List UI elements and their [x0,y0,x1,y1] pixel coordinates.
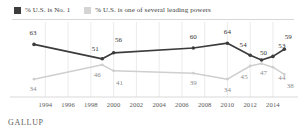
data-point[interactable] [32,43,36,47]
x-tick-1996: 1996 [61,101,75,109]
data-label: 44 [278,74,285,82]
data-point[interactable] [260,58,264,62]
data-label: 56 [115,36,122,44]
x-tick-2012: 2012 [243,101,257,109]
data-point[interactable] [112,69,115,72]
x-tick-2010: 2010 [221,101,235,109]
x-tick-2008: 2008 [198,101,212,109]
data-label: 53 [278,42,285,50]
data-label: 54 [240,41,247,49]
gallup-line-chart: % U.S. is No. 1 % U.S. is one of several… [0,0,304,135]
data-point[interactable] [249,65,252,68]
x-tick-2004: 2004 [152,101,166,109]
legend-label-us-is-no-1: % U.S. is No. 1 [25,6,70,14]
plot-area [0,22,304,102]
gallup-brand-footer: GALLUP [8,118,44,128]
x-tick-2000: 2000 [107,101,121,109]
data-label: 47 [260,69,267,77]
data-label: 64 [224,28,231,36]
data-point[interactable] [226,41,230,45]
data-label: 63 [29,29,36,37]
data-label: 59 [285,33,292,41]
x-axis-tick-labels: 1994199619982000200220042006200820102012… [0,101,304,113]
data-point[interactable] [191,46,195,50]
chart-legend: % U.S. is No. 1 % U.S. is one of several… [0,3,304,17]
data-point[interactable] [260,62,263,65]
data-point[interactable] [101,63,104,66]
data-point[interactable] [271,55,275,59]
data-point[interactable] [192,72,195,75]
data-label: 45 [241,73,248,81]
data-point[interactable] [100,57,104,61]
x-tick-2006: 2006 [175,101,189,109]
data-point[interactable] [112,51,116,55]
legend-entry-one-of-several-leading-powers[interactable]: % U.S. is one of several leading powers [84,6,211,14]
data-label: 51 [92,45,99,53]
data-label: 34 [29,85,36,93]
data-label: 38 [287,82,294,90]
plot-svg [0,22,304,102]
legend-swatch-light-icon [84,7,91,14]
data-point[interactable] [272,66,275,69]
data-point[interactable] [248,53,252,57]
data-point[interactable] [226,78,229,81]
x-tick-2002: 2002 [130,101,144,109]
legend-swatch-dark-icon [14,7,21,14]
data-label: 46 [94,71,101,79]
data-label: 34 [224,86,231,94]
legend-label-one-of-several-leading-powers: % U.S. is one of several leading powers [95,6,211,14]
data-label: 50 [260,49,267,57]
x-tick-2014: 2014 [266,101,280,109]
legend-entry-us-is-no-1[interactable]: % U.S. is No. 1 [14,6,70,14]
data-label: 60 [190,33,197,41]
data-label: 39 [190,79,197,87]
data-point[interactable] [33,78,36,81]
legend-divider [12,19,294,20]
data-label: 41 [116,79,123,87]
x-tick-1998: 1998 [84,101,98,109]
x-tick-1994: 1994 [39,101,53,109]
